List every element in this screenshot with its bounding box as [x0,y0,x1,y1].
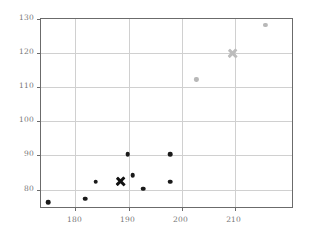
y-axis-tick [37,53,41,54]
data-point-circle [46,200,51,205]
x-axis-tick-label: 180 [67,216,82,224]
y-axis-tick [37,190,41,191]
y-axis-tick [37,19,41,20]
x-axis-tick-label: 210 [226,216,241,224]
data-point-circle [93,179,98,184]
x-axis-tick [235,207,236,211]
y-axis-tick-label: 80 [24,185,34,193]
data-point-circle [168,152,173,157]
data-point-circle [168,179,173,184]
gridline-horizontal [41,155,292,156]
x-axis-tick [75,207,76,211]
scatter-plot-figure: 8090100110120130180190200210 [0,0,309,246]
x-axis-tick-label: 200 [173,216,188,224]
gridline-horizontal [41,190,292,191]
y-axis-tick-label: 130 [19,14,34,22]
data-point-circle [131,173,136,178]
y-axis-tick-label: 100 [19,116,34,124]
y-axis-tick-label: 120 [19,48,34,56]
x-axis-tick [129,207,130,211]
gridline-horizontal [41,53,292,54]
gridline-vertical [129,19,130,207]
x-axis-tick-label: 190 [120,216,135,224]
y-axis-tick-label: 110 [19,82,34,90]
data-point-x-marker [115,176,126,187]
x-axis-tick [182,207,183,211]
gridline-horizontal [41,121,292,122]
data-point-x-marker [227,48,238,59]
y-axis-tick [37,121,41,122]
plot-area [40,18,293,208]
gridline-vertical [75,19,76,207]
data-point-circle [125,152,130,157]
y-axis-tick-label: 90 [24,150,34,158]
data-point-circle [83,196,88,201]
gridline-vertical [182,19,183,207]
gridline-horizontal [41,87,292,88]
data-point-circle [141,186,146,191]
y-axis-tick [37,87,41,88]
y-axis-tick [37,155,41,156]
